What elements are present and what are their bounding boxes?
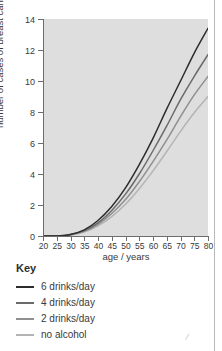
x-tick: 20 [43, 237, 44, 241]
y-axis-title: number of cases of breast cancer per 100… [0, 0, 5, 128]
x-tick: 80 [208, 237, 209, 241]
x-tick-label: 50 [121, 242, 130, 251]
x-tick: 45 [112, 237, 113, 241]
y-tick-label: 4 [30, 170, 35, 179]
x-tick-label: 30 [66, 242, 75, 251]
x-tick-label: 35 [80, 242, 89, 251]
y-tick-label: 2 [30, 201, 35, 210]
x-tick: 65 [167, 237, 168, 241]
x-tick-label: 65 [163, 242, 172, 251]
x-tick-label: 25 [53, 242, 62, 251]
curve-layer [43, 19, 208, 236]
x-tick: 35 [84, 237, 85, 241]
y-tick: 4 [38, 174, 43, 175]
y-tick-mark [38, 174, 43, 175]
y-tick-mark [38, 143, 43, 144]
x-tick-label: 55 [135, 242, 144, 251]
y-tick: 14 [38, 19, 43, 20]
chart-page: number of cases of breast cancer per 100… [0, 0, 222, 351]
x-tick-label: 45 [108, 242, 117, 251]
series-line [43, 97, 208, 237]
x-tick: 75 [194, 237, 195, 241]
x-tick: 70 [181, 237, 182, 241]
breast-cancer-age-chart: number of cases of breast cancer per 100… [0, 0, 214, 262]
legend-item-label: 2 drinks/day [41, 314, 95, 324]
legend-item-label: no alcohol [41, 330, 87, 340]
x-tick-label: 80 [204, 242, 213, 251]
x-tick: 40 [98, 237, 99, 241]
y-tick: 12 [38, 50, 43, 51]
legend-item: 6 drinks/day [16, 279, 206, 295]
series-line [43, 55, 208, 236]
y-tick-label: 8 [30, 108, 35, 117]
y-tick-label: 14 [25, 15, 35, 24]
legend-item-label: 6 drinks/day [41, 282, 95, 292]
x-tick-label: 70 [176, 242, 185, 251]
x-tick-label: 40 [94, 242, 103, 251]
y-tick-mark [38, 112, 43, 113]
legend-line-swatch [16, 302, 34, 304]
y-tick: 10 [38, 81, 43, 82]
x-axis-title: age / years [43, 252, 209, 262]
page-edge-rule [214, 0, 215, 351]
y-tick-mark [38, 205, 43, 206]
y-tick: 6 [38, 143, 43, 144]
legend-item: 2 drinks/day [16, 311, 206, 327]
x-tick-label: 75 [190, 242, 199, 251]
y-tick-mark [38, 19, 43, 20]
legend-line-swatch [16, 334, 34, 336]
y-tick-mark [38, 50, 43, 51]
y-tick-mark [38, 81, 43, 82]
x-tick: 30 [71, 237, 72, 241]
y-tick: 2 [38, 205, 43, 206]
series-line [43, 76, 208, 236]
legend-title: Key [16, 263, 206, 274]
x-tick-label: 60 [149, 242, 158, 251]
legend-item: no alcohol [16, 327, 206, 343]
y-tick: 8 [38, 112, 43, 113]
y-tick-label: 6 [30, 139, 35, 148]
y-tick-label: 10 [25, 77, 35, 86]
y-tick-label: 0 [30, 232, 35, 241]
legend-line-swatch [16, 318, 34, 320]
legend: Key 6 drinks/day4 drinks/day2 drinks/day… [16, 263, 206, 343]
x-tick: 25 [57, 237, 58, 241]
x-tick: 50 [126, 237, 127, 241]
legend-item-label: 4 drinks/day [41, 298, 95, 308]
x-tick: 55 [139, 237, 140, 241]
y-tick-label: 12 [25, 46, 35, 55]
legend-item: 4 drinks/day [16, 295, 206, 311]
legend-line-swatch [16, 286, 34, 288]
y-axis-line [43, 19, 44, 237]
plot-area [43, 19, 208, 236]
x-tick-label: 20 [39, 242, 48, 251]
x-tick: 60 [153, 237, 154, 241]
